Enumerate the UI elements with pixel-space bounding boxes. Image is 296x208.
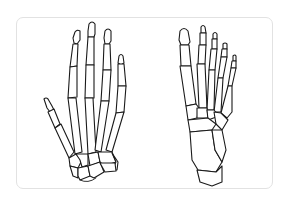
foot-skeleton: [179, 26, 236, 187]
middle-finger: [85, 22, 96, 154]
hand-skeleton: [44, 22, 126, 182]
second-toe: [197, 26, 207, 109]
index-finger: [68, 30, 82, 154]
skeleton-illustration: [0, 0, 296, 208]
tarsal-bones: [186, 104, 228, 186]
big-toe: [179, 29, 196, 107]
ring-finger: [95, 29, 111, 152]
carpal-bones: [69, 152, 118, 182]
